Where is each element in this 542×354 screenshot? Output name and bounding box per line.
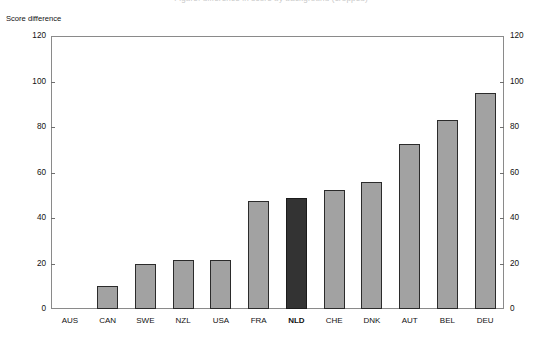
y-tick-label-left: 20 <box>37 260 46 268</box>
bar-nzl[interactable] <box>173 260 194 309</box>
x-tick-label-fra: FRA <box>240 316 278 325</box>
y-tick-label-left: 120 <box>32 32 46 40</box>
y-tick-label-right: 80 <box>510 123 519 131</box>
x-tick-label-can: CAN <box>89 316 127 325</box>
y-tick-label-right: 0 <box>510 305 515 313</box>
bar-can[interactable] <box>97 286 118 309</box>
chart-title-cropped: Figure: difference in score by backgroun… <box>0 0 542 4</box>
x-tick-label-aus: AUS <box>51 316 89 325</box>
bar-che[interactable] <box>324 190 345 309</box>
bar-bel[interactable] <box>437 120 458 309</box>
bar-deu[interactable] <box>475 93 496 309</box>
y-tick-label-right: 120 <box>510 32 524 40</box>
x-tick-label-dnk: DNK <box>353 316 391 325</box>
y-tick-label-right: 60 <box>510 169 519 177</box>
y-axis-title: Score difference <box>6 14 61 23</box>
y-tick-label-left: 100 <box>32 78 46 86</box>
x-tick-label-deu: DEU <box>466 316 504 325</box>
bar-dnk[interactable] <box>361 182 382 309</box>
bar-aut[interactable] <box>399 144 420 309</box>
bars-layer <box>51 36 504 309</box>
x-tick-label-che: CHE <box>315 316 353 325</box>
y-tick-label-left: 60 <box>37 169 46 177</box>
y-tick-label-right: 20 <box>510 260 519 268</box>
bar-usa[interactable] <box>210 260 231 309</box>
y-tick-label-left: 0 <box>41 305 46 313</box>
y-tick-label-left: 80 <box>37 123 46 131</box>
x-tick-label-nzl: NZL <box>164 316 202 325</box>
x-tick-label-aut: AUT <box>391 316 429 325</box>
x-tick-label-usa: USA <box>202 316 240 325</box>
bar-nld[interactable] <box>286 198 307 309</box>
y-tick-label-left: 40 <box>37 214 46 222</box>
y-tick-label-right: 100 <box>510 78 524 86</box>
bar-fra[interactable] <box>248 201 269 309</box>
y-tick-label-right: 40 <box>510 214 519 222</box>
x-tick-label-nld: NLD <box>278 316 316 325</box>
bar-swe[interactable] <box>135 264 156 310</box>
x-tick-label-swe: SWE <box>127 316 165 325</box>
x-tick-label-bel: BEL <box>429 316 467 325</box>
